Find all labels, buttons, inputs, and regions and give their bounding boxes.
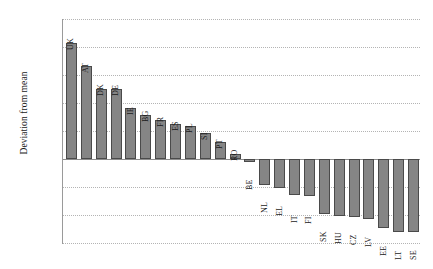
bar-dk[interactable]: DK xyxy=(96,19,107,243)
bar-si[interactable]: SI xyxy=(200,19,211,243)
bar-rect xyxy=(81,66,92,159)
bar-es[interactable]: ES xyxy=(170,19,181,243)
bar-rect xyxy=(111,89,122,159)
bar-label-lv: LV xyxy=(364,237,373,247)
bar-de[interactable]: DE xyxy=(111,19,122,243)
bar-label-uk: UK xyxy=(66,38,75,50)
bar-rect xyxy=(408,159,419,232)
bar-rect xyxy=(363,159,374,219)
bar-ro[interactable]: RO xyxy=(230,19,241,243)
bar-fr[interactable]: FR xyxy=(155,19,166,243)
bar-label-cz: CZ xyxy=(349,235,358,246)
bar-label-fr: FR xyxy=(156,117,165,127)
bar-at[interactable]: AT xyxy=(81,19,92,243)
bar-label-se: SE xyxy=(409,251,418,261)
bar-lv[interactable]: LV xyxy=(363,19,374,243)
bar-lt[interactable]: LT xyxy=(393,19,404,243)
y-axis-title: Deviation from mean xyxy=(19,28,29,198)
bar-label-sk: SK xyxy=(319,231,328,242)
bar-label-hu: HU xyxy=(334,232,343,244)
bar-rect xyxy=(334,159,345,216)
bar-label-dk: DK xyxy=(96,84,105,96)
bar-ee[interactable]: EE xyxy=(378,19,389,243)
bar-label-pl: PL xyxy=(185,123,194,133)
bar-label-es: ES xyxy=(171,121,180,131)
chart-figure: Deviation from mean 2.502.001.501.000.50… xyxy=(0,0,433,269)
bar-label-fi: FI xyxy=(304,216,313,224)
bar-rect xyxy=(349,159,360,217)
bar-it[interactable]: IT xyxy=(289,19,300,243)
bar-rect xyxy=(319,159,330,214)
bar-rect xyxy=(66,43,77,159)
bar-label-de: DE xyxy=(111,85,120,96)
bar-fi[interactable]: FI xyxy=(304,19,315,243)
bar-se[interactable]: SE xyxy=(408,19,419,243)
bar-label-it: IT xyxy=(290,215,299,223)
bar-ie[interactable]: IE xyxy=(125,19,136,243)
bar-label-pt: PT xyxy=(215,139,224,149)
bar-label-ee: EE xyxy=(379,246,388,256)
bar-label-ro: RO xyxy=(230,149,239,161)
bar-label-nl: NL xyxy=(260,202,269,213)
bar-rect xyxy=(244,159,255,162)
bars-group: UKATDKDEIEBGFRESPLSIPTROBENLELITFISKHUCZ… xyxy=(63,19,420,243)
bar-label-bg: BG xyxy=(141,110,150,122)
bar-el[interactable]: EL xyxy=(274,19,285,243)
bar-sk[interactable]: SK xyxy=(319,19,330,243)
bar-be[interactable]: BE xyxy=(244,19,255,243)
bar-label-be: BE xyxy=(245,179,254,190)
bar-label-lt: LT xyxy=(394,250,403,259)
bar-rect xyxy=(125,108,136,159)
bar-label-ie: IE xyxy=(126,107,135,115)
bar-cz[interactable]: CZ xyxy=(349,19,360,243)
bar-label-at: AT xyxy=(81,63,90,73)
bar-nl[interactable]: NL xyxy=(259,19,270,243)
bar-bg[interactable]: BG xyxy=(140,19,151,243)
bar-uk[interactable]: UK xyxy=(66,19,77,243)
bar-pt[interactable]: PT xyxy=(215,19,226,243)
bar-hu[interactable]: HU xyxy=(334,19,345,243)
plot-area: 2.502.001.501.000.500.00−0.50−1.00−1.50 … xyxy=(63,19,420,243)
bar-rect xyxy=(393,159,404,232)
bar-rect xyxy=(289,159,300,195)
bar-rect xyxy=(96,89,107,159)
bar-rect xyxy=(304,159,315,196)
bar-rect xyxy=(259,159,270,185)
bar-rect xyxy=(274,159,285,188)
bar-rect xyxy=(378,159,389,228)
bar-label-si: SI xyxy=(200,133,209,141)
bar-label-el: EL xyxy=(275,206,284,216)
bar-pl[interactable]: PL xyxy=(185,19,196,243)
